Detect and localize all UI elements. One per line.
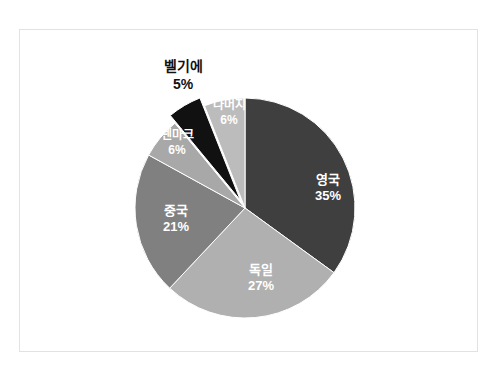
pie-svg [0, 0, 503, 380]
pie-slice-group [135, 98, 355, 318]
pie-chart: 영국 35% 독일 27% 중국 21% 덴마크 6% 벨기에 5% 나머지 6… [0, 0, 503, 380]
figure-root: 영국 35% 독일 27% 중국 21% 덴마크 6% 벨기에 5% 나머지 6… [0, 0, 503, 380]
